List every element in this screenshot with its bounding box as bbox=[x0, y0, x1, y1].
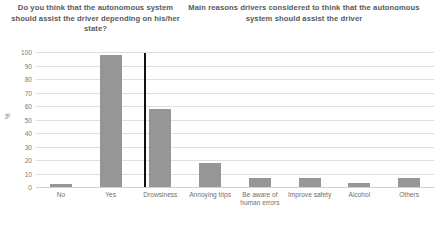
y-axis-tick-label: 10 bbox=[10, 170, 32, 177]
x-axis-tick-label: Yes bbox=[89, 191, 133, 199]
bar-group: Others bbox=[384, 52, 434, 187]
bar[interactable] bbox=[50, 184, 72, 187]
bar[interactable] bbox=[149, 109, 171, 187]
bar[interactable] bbox=[398, 178, 420, 187]
plot-area: 0102030405060708090100 NoYesDrowsinessAn… bbox=[36, 52, 434, 187]
bar[interactable] bbox=[299, 178, 321, 187]
bar-group: No bbox=[36, 52, 86, 187]
bar-group: Drowsiness bbox=[136, 52, 186, 187]
y-axis-tick-label: 0 bbox=[10, 184, 32, 191]
y-axis-tick-label: 90 bbox=[10, 62, 32, 69]
y-axis-tick-label: 20 bbox=[10, 157, 32, 164]
y-axis-tick-label: 50 bbox=[10, 116, 32, 123]
bar-group: Alcohol bbox=[335, 52, 385, 187]
y-axis-tick-label: 80 bbox=[10, 76, 32, 83]
bar-series: NoYesDrowsinessAnnoying tripsBe aware of… bbox=[36, 52, 434, 187]
bar[interactable] bbox=[100, 55, 122, 187]
left-chart-title: Do you think that the autonomous system … bbox=[8, 3, 183, 35]
bar[interactable] bbox=[199, 163, 221, 187]
y-axis-tick-label: 30 bbox=[10, 143, 32, 150]
bar-chart: % 0102030405060708090100 NoYesDrowsiness… bbox=[0, 40, 441, 228]
x-axis-tick-label: Alcohol bbox=[337, 191, 381, 199]
bar-group: Improve safety bbox=[285, 52, 335, 187]
y-axis-tick-label: 40 bbox=[10, 130, 32, 137]
bar[interactable] bbox=[249, 178, 271, 187]
x-axis-tick-label: No bbox=[39, 191, 83, 199]
x-axis-tick-label: Be aware of human errors bbox=[238, 191, 282, 207]
bar[interactable] bbox=[348, 183, 370, 187]
x-axis-tick-label: Improve safety bbox=[288, 191, 332, 199]
x-axis-tick-label: Others bbox=[387, 191, 431, 199]
gridline: 0 bbox=[36, 187, 434, 188]
bar-group: Annoying trips bbox=[185, 52, 235, 187]
y-axis-tick-label: 60 bbox=[10, 103, 32, 110]
right-chart-title: Main reasons drivers considered to think… bbox=[188, 3, 420, 24]
chart-titles: Do you think that the autonomous system … bbox=[0, 0, 441, 40]
bar-group: Be aware of human errors bbox=[235, 52, 285, 187]
bar-group: Yes bbox=[86, 52, 136, 187]
x-axis-tick-label: Drowsiness bbox=[138, 191, 182, 199]
section-divider bbox=[144, 53, 146, 187]
y-axis-tick-label: 70 bbox=[10, 89, 32, 96]
y-axis-tick-label: 100 bbox=[10, 49, 32, 56]
x-axis-tick-label: Annoying trips bbox=[188, 191, 232, 199]
